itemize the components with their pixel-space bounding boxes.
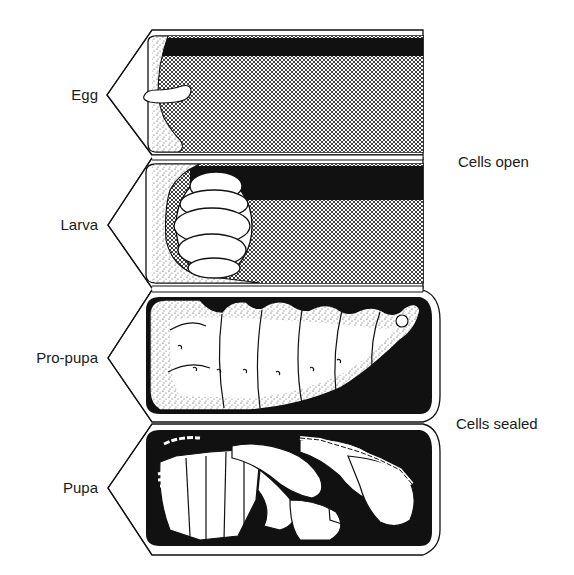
cell-dark-band	[162, 38, 424, 56]
stage-label-pupa: Pupa	[63, 479, 99, 496]
stage-label-pro-pupa: Pro-pupa	[36, 349, 98, 366]
cell-egg	[107, 30, 425, 155]
pro-pupa-head	[396, 315, 408, 327]
group-label-cells-sealed: Cells sealed	[456, 415, 538, 432]
stage-label-larva: Larva	[60, 216, 98, 233]
cell-pro-pupa	[108, 286, 440, 422]
bee-development-diagram: Egg Larva Pro-pupa Pupa Cells open Cells…	[0, 0, 574, 575]
cell-larva	[108, 155, 426, 288]
group-label-cells-open: Cells open	[458, 153, 529, 170]
stage-label-egg: Egg	[71, 86, 98, 103]
cell-pupa	[108, 424, 440, 555]
